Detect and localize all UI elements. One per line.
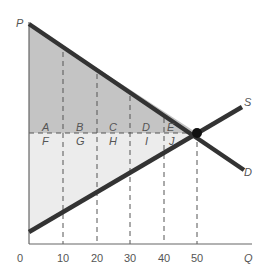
demand-label: D	[244, 166, 252, 178]
supply-label: S	[244, 96, 252, 108]
supply-demand-chart: P Q 0 S D 10 20 30 40 50 A B C D E F G H…	[0, 0, 266, 275]
tick-20: 20	[91, 252, 103, 264]
region-c: C	[109, 121, 117, 133]
x-tick-labels: 10 20 30 40 50	[57, 252, 203, 264]
tick-10: 10	[57, 252, 69, 264]
tick-50: 50	[191, 252, 203, 264]
region-j: J	[168, 135, 175, 147]
region-a: A	[41, 121, 49, 133]
equilibrium-point	[192, 128, 202, 138]
tick-30: 30	[124, 252, 136, 264]
y-axis-label: P	[16, 17, 24, 29]
region-g: G	[76, 135, 85, 147]
origin-label: 0	[17, 252, 23, 264]
x-axis-label: Q	[244, 252, 253, 264]
region-h: H	[109, 135, 117, 147]
region-e: E	[167, 121, 175, 133]
tick-40: 40	[158, 252, 170, 264]
region-b: B	[76, 121, 83, 133]
region-i: I	[145, 135, 148, 147]
region-d: D	[142, 121, 150, 133]
